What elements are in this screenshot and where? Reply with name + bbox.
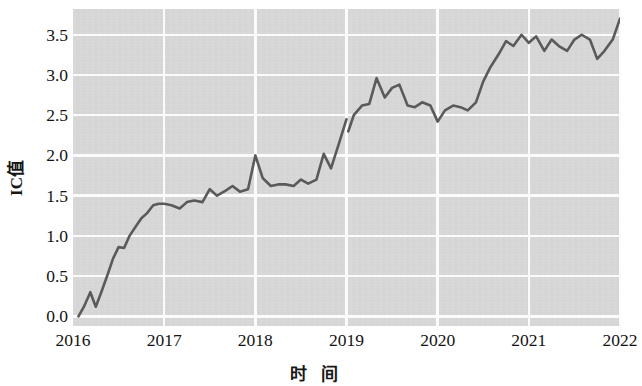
x-axis-title: 时 间 [0, 360, 633, 385]
x-tick-label: 2018 [210, 330, 300, 351]
x-tick-label: 2016 [28, 330, 118, 351]
x-tick-label: 2017 [119, 330, 209, 351]
x-tick-label: 2019 [302, 330, 392, 351]
x-tick-label: 2020 [393, 330, 483, 351]
x-tick-label: 2022 [575, 330, 642, 351]
x-tick-label: 2021 [484, 330, 574, 351]
y-axis-title: IC值 [2, 128, 27, 228]
